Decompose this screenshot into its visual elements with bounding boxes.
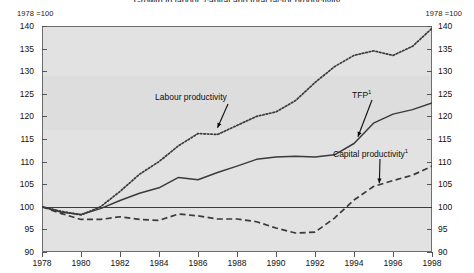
series-layer — [42, 26, 432, 252]
x-tick-mark — [276, 252, 277, 257]
x-tick-label: 1982 — [100, 258, 140, 268]
x-tick-mark — [354, 252, 355, 257]
x-tick-label: 1986 — [178, 258, 218, 268]
x-tick-mark — [198, 252, 199, 257]
y-tick-label: 100 — [0, 202, 34, 212]
y-tick-label: 125 — [0, 89, 34, 99]
left-axis-note: 1978 =100 — [17, 9, 54, 18]
chart-figure: Growth in labour, capital and total fact… — [0, 0, 474, 273]
footnote-marker: 1 — [405, 148, 408, 154]
x-tick-label: 1990 — [256, 258, 296, 268]
chart-title: Growth in labour, capital and total fact… — [0, 0, 474, 2]
x-tick-label: 1978 — [22, 258, 62, 268]
y-tick-label: 120 — [438, 111, 474, 121]
x-tick-label: 1988 — [217, 258, 257, 268]
y-tick-label: 110 — [438, 157, 474, 167]
x-tick-mark — [393, 252, 394, 257]
y-tick-label: 115 — [438, 134, 474, 144]
series-line-capital-productivity — [42, 166, 432, 233]
y-tick-label: 140 — [0, 21, 34, 31]
x-tick-label: 1992 — [295, 258, 335, 268]
y-tick-label: 130 — [438, 66, 474, 76]
y-tick-label: 95 — [438, 224, 474, 234]
y-tick-label: 135 — [0, 44, 34, 54]
y-tick-label: 90 — [0, 247, 34, 257]
footnote-marker: 1 — [368, 89, 371, 95]
y-tick-label: 115 — [0, 134, 34, 144]
y-tick-label: 90 — [438, 247, 474, 257]
x-tick-label: 1998 — [412, 258, 452, 268]
annotation-arrowhead — [377, 178, 381, 183]
x-tick-mark — [432, 252, 433, 257]
x-tick-mark — [120, 252, 121, 257]
y-tick-label: 110 — [0, 157, 34, 167]
y-tick-label: 105 — [438, 179, 474, 189]
x-tick-label: 1994 — [334, 258, 374, 268]
x-tick-mark — [42, 252, 43, 257]
x-tick-mark — [315, 252, 316, 257]
y-tick-label: 130 — [0, 66, 34, 76]
y-tick-label: 95 — [0, 224, 34, 234]
x-tick-mark — [81, 252, 82, 257]
right-axis-note: 1978 =100 — [425, 9, 462, 18]
y-tick-label: 120 — [0, 111, 34, 121]
x-tick-label: 1984 — [139, 258, 179, 268]
x-tick-mark — [159, 252, 160, 257]
x-tick-label: 1996 — [373, 258, 413, 268]
x-tick-label: 1980 — [61, 258, 101, 268]
annotation-capital-productivity: Capital productivity1 — [333, 148, 408, 159]
y-tick-label: 140 — [438, 21, 474, 31]
x-tick-mark — [237, 252, 238, 257]
annotation-tfp: TFP1 — [352, 89, 371, 100]
y-tick-label: 100 — [438, 202, 474, 212]
annotation-labour-productivity: Labour productivity — [155, 92, 227, 102]
y-tick-label: 125 — [438, 89, 474, 99]
y-tick-label: 105 — [0, 179, 34, 189]
y-tick-label: 135 — [438, 44, 474, 54]
